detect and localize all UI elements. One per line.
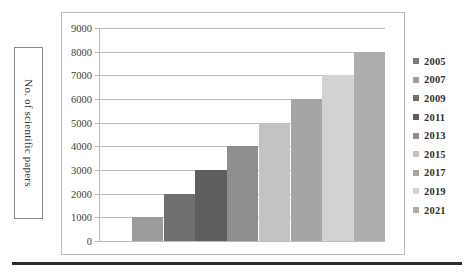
- legend-item-2005[interactable]: 2005: [413, 52, 471, 71]
- y-tick-label: 8000: [71, 46, 92, 57]
- bar-2019: [322, 75, 353, 241]
- legend-swatch-icon: [413, 133, 419, 139]
- legend-item-2021[interactable]: 2021: [413, 201, 471, 220]
- horizontal-rule: [12, 262, 462, 265]
- plot-area: 9000800070006000500040003000200010000: [99, 28, 385, 241]
- bar-2015: [259, 123, 290, 241]
- legend-item-2017[interactable]: 2017: [413, 164, 471, 183]
- legend-label: 2013: [424, 130, 446, 141]
- legend-item-2007[interactable]: 2007: [413, 71, 471, 90]
- legend-item-2015[interactable]: 2015: [413, 145, 471, 164]
- y-tick-label: 7000: [71, 70, 92, 81]
- bar-series: [99, 28, 385, 241]
- legend-label: 2011: [424, 112, 445, 123]
- y-tick-label: 1000: [71, 212, 92, 223]
- bar-2017: [291, 99, 322, 241]
- legend-item-2019[interactable]: 2019: [413, 182, 471, 201]
- legend-swatch-icon: [413, 95, 419, 101]
- bar-2007: [132, 217, 163, 241]
- figure-caption: [12, 268, 462, 279]
- y-tick-label: 4000: [71, 141, 92, 152]
- legend-label: 2009: [424, 93, 446, 104]
- y-tick-label: 9000: [71, 23, 92, 34]
- legend-item-2011[interactable]: 2011: [413, 108, 471, 127]
- legend-label: 2015: [424, 149, 446, 160]
- legend-item-2009[interactable]: 2009: [413, 89, 471, 108]
- gridline-0: [99, 241, 385, 242]
- legend-swatch-icon: [413, 114, 419, 120]
- legend: 200520072009201120132015201720192021: [413, 52, 471, 219]
- legend-label: 2007: [424, 74, 446, 85]
- legend-swatch-icon: [413, 207, 419, 213]
- legend-swatch-icon: [413, 188, 419, 194]
- bar-2009: [164, 194, 195, 241]
- legend-item-2013[interactable]: 2013: [413, 126, 471, 145]
- y-tick-label: 2000: [71, 188, 92, 199]
- chart-frame: 9000800070006000500040003000200010000: [61, 12, 405, 255]
- y-tick-label: 6000: [71, 94, 92, 105]
- legend-label: 2021: [424, 205, 446, 216]
- y-axis-title-box: No. of scientific papers: [14, 47, 43, 219]
- legend-label: 2005: [424, 56, 446, 67]
- bar-2021: [354, 52, 385, 241]
- y-tick-label: 3000: [71, 165, 92, 176]
- legend-swatch-icon: [413, 151, 419, 157]
- legend-swatch-icon: [413, 58, 419, 64]
- bar-2011: [195, 170, 226, 241]
- y-tick-0: [95, 241, 99, 242]
- y-tick-label: 0: [87, 236, 92, 247]
- legend-label: 2019: [424, 186, 446, 197]
- y-tick-label: 5000: [71, 117, 92, 128]
- y-axis-title-label: No. of scientific papers: [23, 79, 35, 186]
- legend-swatch-icon: [413, 77, 419, 83]
- legend-swatch-icon: [413, 170, 419, 176]
- bar-2013: [227, 146, 258, 241]
- legend-label: 2017: [424, 167, 446, 178]
